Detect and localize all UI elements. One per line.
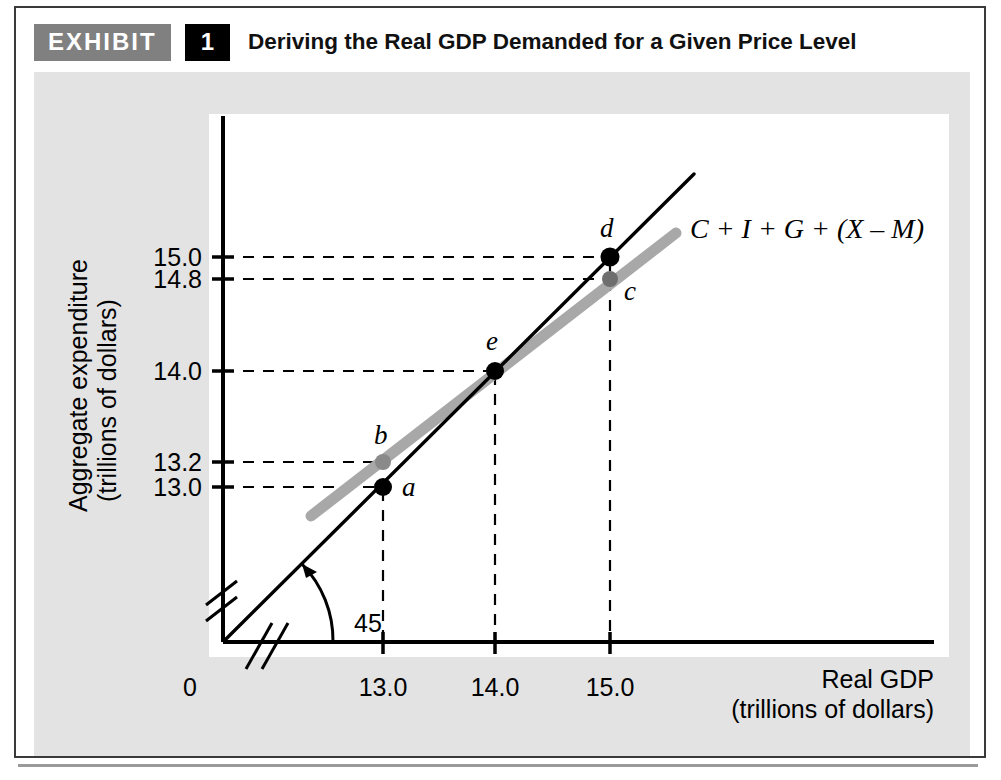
graph-svg: 45 a b e d c C + I + G + (X – M) 15.0 14… — [34, 72, 970, 756]
point-label-c: c — [624, 276, 636, 306]
axis-break-marks — [206, 581, 288, 669]
point-marker-c — [602, 271, 618, 287]
x-origin-label: 0 — [183, 673, 197, 701]
y-tick-label-14-8: 14.8 — [153, 265, 202, 293]
bottom-divider-rule — [18, 764, 978, 767]
x-axis-break-slash-2 — [262, 623, 288, 669]
exhibit-number-badge: 1 — [185, 24, 230, 61]
x-axis-title-line2: (trillions of dollars) — [731, 695, 934, 723]
y-tick-label-14-0: 14.0 — [153, 357, 202, 385]
point-marker-d — [601, 248, 620, 267]
x-tick-label-13-0: 13.0 — [359, 673, 408, 701]
exhibit-label-badge: EXHIBIT — [34, 24, 171, 61]
y-axis-title-line2: (trillions of dollars) — [93, 299, 121, 502]
y-axis-title-line1: Aggregate expenditure — [64, 259, 92, 512]
y-tick-label-13-0: 13.0 — [153, 473, 202, 501]
point-marker-e — [486, 362, 504, 380]
exhibit-header: EXHIBIT 1 Deriving the Real GDP Demanded… — [34, 22, 857, 62]
forty-five-degree-line — [225, 174, 694, 640]
x-tick-label-14-0: 14.0 — [471, 673, 520, 701]
point-label-e: e — [486, 326, 498, 356]
x-axis-title-line1: Real GDP — [821, 665, 934, 693]
x-tick-label-15-0: 15.0 — [586, 673, 635, 701]
x-axis-break-slash-1 — [246, 623, 272, 669]
figure-panel: 45 a b e d c C + I + G + (X – M) 15.0 14… — [34, 72, 970, 756]
point-label-a: a — [402, 472, 416, 502]
exhibit-title: Deriving the Real GDP Demanded for a Giv… — [248, 29, 857, 55]
point-label-d: d — [600, 213, 614, 243]
angle-arrowhead — [302, 564, 317, 578]
y-tick-label-13-2: 13.2 — [153, 448, 202, 476]
point-marker-b — [375, 454, 391, 470]
exhibit-frame: EXHIBIT 1 Deriving the Real GDP Demanded… — [14, 6, 986, 758]
horizontal-guide-lines — [223, 257, 610, 487]
ae-line-legend-label: C + I + G + (X – M) — [690, 213, 924, 244]
angle-label: 45 — [354, 609, 382, 637]
point-marker-a — [374, 478, 392, 496]
point-label-b: b — [374, 420, 388, 450]
